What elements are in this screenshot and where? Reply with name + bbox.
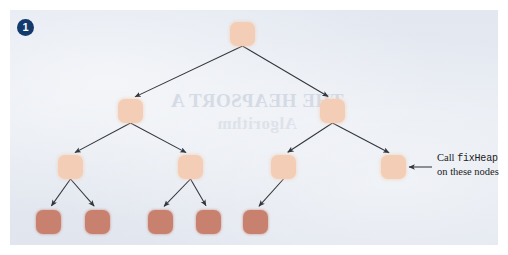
page-showthrough-text-2: Algorithm [22,114,492,134]
fixheap-annotation: Call fixHeap on these nodes [437,152,499,178]
tree-node-n0 [230,22,255,46]
annotation-call-word: Call [437,152,457,163]
page-showthrough-text-1: THE HEAPSORT A [22,90,492,112]
tree-node-n2 [320,99,345,123]
tree-node-n6 [381,155,406,179]
step-badge: 1 [17,19,34,36]
figure-root: THE HEAPSORT A Algorithm 1 Call fixHeap … [0,0,508,255]
tree-node-n7 [36,210,61,234]
tree-node-n1 [118,99,143,123]
tree-node-n9 [148,210,173,234]
tree-node-n5 [271,155,296,179]
annotation-code-fixheap: fixHeap [457,153,498,164]
tree-node-n10 [196,210,221,234]
annotation-line-2: on these nodes [437,166,499,179]
tree-node-n3 [58,155,83,179]
tree-node-n11 [243,210,268,234]
tree-node-n8 [85,210,110,234]
annotation-line-1: Call fixHeap [437,152,499,166]
tree-node-n4 [178,155,203,179]
